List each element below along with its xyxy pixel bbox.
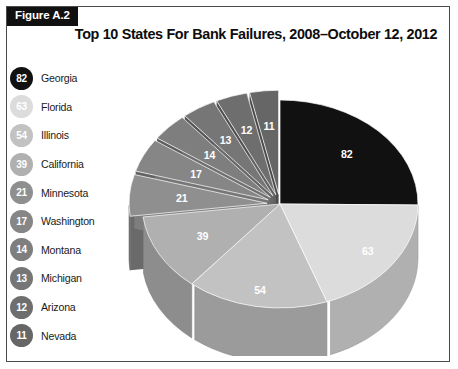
legend-item-illinois: 54Illinois <box>10 121 130 150</box>
figure-label: Figure A.2 <box>7 7 78 26</box>
legend-label: Florida <box>41 101 72 113</box>
legend-label: Georgia <box>41 72 77 84</box>
legend-badge: 12 <box>10 296 33 319</box>
legend-item-california: 39California <box>10 150 130 179</box>
legend-item-arizona: 12Arizona <box>10 293 130 322</box>
legend-item-montana: 14Montana <box>10 236 130 265</box>
legend-badge: 17 <box>10 210 33 233</box>
legend-label: Minnesota <box>41 187 88 199</box>
slice-value-63: 63 <box>362 245 374 257</box>
legend-badge: 39 <box>10 153 33 176</box>
legend-label: Michigan <box>41 272 82 284</box>
legend-label: Illinois <box>41 129 69 141</box>
legend-badge: 13 <box>10 267 33 290</box>
pie-chart-svg: 82635439211714131211 <box>128 56 448 356</box>
legend-badge: 54 <box>10 124 33 147</box>
legend-badge: 21 <box>10 181 33 204</box>
legend-item-minnesota: 21Minnesota <box>10 178 130 207</box>
legend-label: California <box>41 158 84 170</box>
slice-value-54: 54 <box>254 284 266 296</box>
slice-value-82: 82 <box>341 148 353 160</box>
slice-value-39: 39 <box>197 230 209 242</box>
legend-label: Washington <box>41 215 95 227</box>
slice-value-14: 14 <box>204 149 216 161</box>
legend-item-washington: 17Washington <box>10 207 130 236</box>
pie-chart: 82635439211714131211 <box>128 56 448 356</box>
figure-container: Figure A.2 Top 10 States For Bank Failur… <box>0 0 458 369</box>
page-title: Top 10 States For Bank Failures, 2008–Oc… <box>60 26 452 42</box>
legend-badge: 14 <box>10 238 33 261</box>
legend-item-florida: 63Florida <box>10 93 130 122</box>
slice-value-17: 17 <box>190 168 202 180</box>
legend-label: Montana <box>41 244 81 256</box>
legend-item-nevada: 11Nevada <box>10 321 130 350</box>
slice-value-11: 11 <box>264 120 275 132</box>
legend-item-georgia: 82Georgia <box>10 64 130 93</box>
slice-value-12: 12 <box>241 124 253 136</box>
slice-value-21: 21 <box>176 192 188 204</box>
legend-label: Arizona <box>41 301 76 313</box>
slice-value-13: 13 <box>220 134 232 146</box>
legend-badge: 63 <box>10 95 33 118</box>
legend-label: Nevada <box>41 330 76 342</box>
legend-badge: 11 <box>10 324 33 347</box>
chart-legend: 82Georgia63Florida54Illinois39California… <box>10 64 130 350</box>
legend-badge: 82 <box>10 67 33 90</box>
legend-item-michigan: 13Michigan <box>10 264 130 293</box>
